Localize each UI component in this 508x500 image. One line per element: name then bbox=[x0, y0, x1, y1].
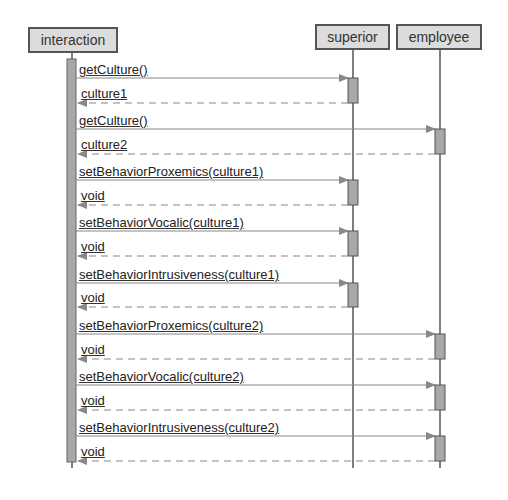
sequence-diagram: interactionsuperioremployee getCulture()… bbox=[0, 0, 508, 500]
message-call-label: setBehaviorProxemics(culture2) bbox=[79, 319, 263, 333]
message-call-label: getCulture() bbox=[79, 114, 148, 128]
message-call-label: setBehaviorVocalic(culture2) bbox=[79, 370, 244, 384]
activation-superior bbox=[348, 180, 358, 205]
message-call-label: setBehaviorProxemics(culture1) bbox=[79, 165, 263, 179]
message-call-label: getCulture() bbox=[79, 63, 148, 77]
message-return-label: void bbox=[81, 189, 105, 203]
message-return-label: culture1 bbox=[81, 87, 127, 101]
message-return-label: void bbox=[81, 291, 105, 305]
message-call-label: setBehaviorIntrusiveness(culture2) bbox=[79, 421, 279, 435]
activation-superior bbox=[348, 78, 358, 103]
message-return-label: void bbox=[81, 343, 105, 357]
message-return-label: void bbox=[81, 394, 105, 408]
participant-interaction[interactable]: interaction bbox=[28, 27, 118, 53]
message-call-label: setBehaviorVocalic(culture1) bbox=[79, 216, 244, 230]
activation-superior bbox=[348, 283, 358, 307]
message-return-label: culture2 bbox=[81, 138, 127, 152]
participant-employee[interactable]: employee bbox=[396, 24, 482, 50]
activation-employee bbox=[435, 129, 445, 154]
message-return-label: void bbox=[81, 240, 105, 254]
activation-employee bbox=[435, 385, 445, 410]
message-call-label: setBehaviorIntrusiveness(culture1) bbox=[79, 268, 279, 282]
participant-superior[interactable]: superior bbox=[315, 24, 390, 50]
activation-employee bbox=[435, 436, 445, 461]
message-return-label: void bbox=[81, 445, 105, 459]
activation-interaction bbox=[67, 59, 76, 462]
activation-superior bbox=[348, 231, 358, 256]
activation-employee bbox=[435, 334, 445, 359]
